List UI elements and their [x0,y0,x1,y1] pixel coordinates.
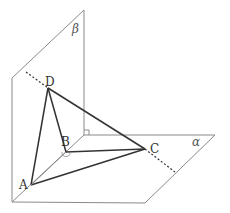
label-D: D [45,75,55,89]
edge-BC [66,149,145,152]
label-C: C [150,142,159,156]
geometry-figure: β α D B A C [0,0,230,213]
label-A: A [18,178,28,192]
label-alpha: α [192,135,200,149]
edge-AC [31,149,145,185]
tetrahedron-edges [31,88,145,185]
diagram-canvas: β α D B A C [0,0,230,213]
plane-alpha [12,135,215,203]
label-beta: β [71,22,79,36]
right-angle-marker [84,130,89,135]
plane-beta [12,10,84,202]
label-B: B [61,135,70,149]
